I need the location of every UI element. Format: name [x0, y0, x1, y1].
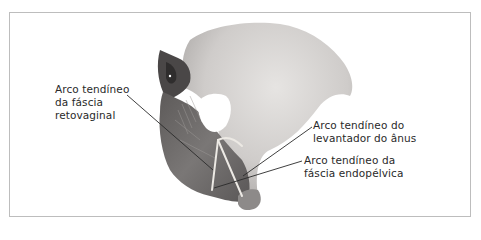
label-line: Arco tendíneo da — [304, 154, 403, 167]
label-arco-tendineo-fascia-endopelvica: Arco tendíneo da fáscia endopélvica — [304, 154, 403, 180]
label-arco-tendineo-levantador-anus: Arco tendíneo do levantador do ânus — [313, 119, 416, 145]
label-line: Arco tendíneo — [55, 83, 129, 96]
label-line: levantador do ânus — [313, 132, 416, 145]
label-line: da fáscia — [55, 96, 129, 109]
label-arco-tendineo-fascia-retovaginal: Arco tendíneo da fáscia retovaginal — [55, 83, 129, 122]
highlight-dot — [169, 75, 171, 77]
label-line: fáscia endopélvica — [304, 167, 403, 180]
label-line: Arco tendíneo do — [313, 119, 416, 132]
label-line: retovaginal — [55, 109, 129, 122]
